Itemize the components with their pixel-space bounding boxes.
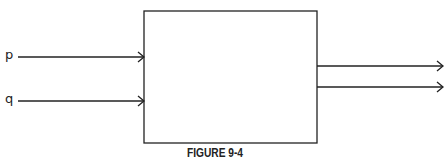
input-arrow-q <box>18 96 144 106</box>
output-arrow-1 <box>317 61 443 71</box>
system-box <box>144 11 317 143</box>
output-arrow-2 <box>317 82 443 92</box>
input-label-p: p <box>5 48 13 61</box>
block-diagram <box>0 0 447 161</box>
figure-caption: FIGURE 9-4 <box>32 146 398 160</box>
input-arrow-p <box>18 52 144 62</box>
input-label-q: q <box>5 92 13 105</box>
